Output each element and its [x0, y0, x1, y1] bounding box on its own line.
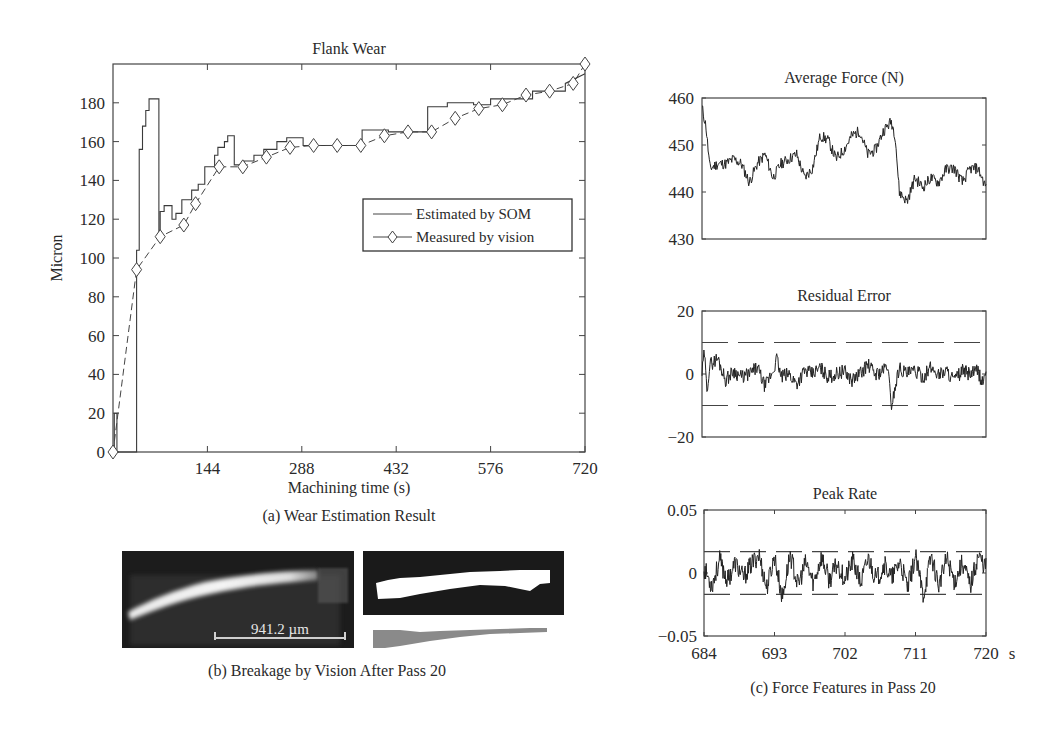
- y-tick-label: 20: [677, 302, 694, 321]
- average-force-chart: Average Force (N) 430440450460: [669, 69, 987, 249]
- y-tick-label: 430: [669, 230, 695, 249]
- vision-diamond-marker: [474, 102, 484, 116]
- flank-wear-chart: Flank Wear 020406080100120140160180 1442…: [48, 40, 598, 525]
- peak-rate-chart: Peak Rate −0.0500.05 684693702711720s: [658, 485, 1016, 663]
- figure-canvas: Flank Wear 020406080100120140160180 1442…: [0, 0, 1059, 737]
- average-force-title: Average Force (N): [784, 69, 904, 87]
- y-tick-label: 100: [80, 249, 106, 268]
- y-tick-label: 40: [88, 365, 105, 384]
- y-tick-label: 140: [80, 171, 106, 190]
- residual-error-title: Residual Error: [797, 287, 891, 304]
- x-tick-label: 432: [383, 459, 409, 478]
- breakage-vision-images: 941.2 µm (b) Breakage by Vision After Pa…: [122, 551, 564, 680]
- caption-b: (b) Breakage by Vision After Pass 20: [208, 662, 446, 680]
- caption-c: (c) Force Features in Pass 20: [750, 679, 935, 697]
- y-tick-label: 0: [97, 443, 106, 462]
- flank-wear-y-axis: 020406080100120140160180: [80, 94, 586, 462]
- y-tick-label: 0: [686, 365, 695, 384]
- y-tick-label: 120: [80, 210, 106, 229]
- vision-diamond-marker: [309, 138, 319, 152]
- x-tick-label: 702: [832, 644, 858, 663]
- x-tick-label: 711: [903, 644, 928, 663]
- legend-som-label: Estimated by SOM: [416, 206, 531, 222]
- vision-diamond-marker: [261, 150, 271, 164]
- flank-wear-x-label: Machining time (s): [288, 479, 411, 497]
- peak-rate-x-axis: 684693702711720s: [691, 510, 1015, 663]
- x-tick-label: 684: [691, 644, 717, 663]
- flank-wear-plot-frame: [113, 64, 585, 452]
- x-tick-label: 288: [289, 459, 315, 478]
- wear-profile-image: [373, 628, 547, 648]
- vision-diamond-marker: [450, 111, 460, 125]
- raw-tool-image: 941.2 µm: [122, 551, 354, 648]
- vision-diamond-marker: [521, 88, 531, 102]
- residual-error-y-axis: −20020: [667, 302, 986, 447]
- y-tick-label: 60: [88, 327, 105, 346]
- y-tick-label: 450: [669, 136, 695, 155]
- vision-diamond-marker: [403, 125, 413, 139]
- vision-measured-line: [113, 64, 585, 452]
- y-tick-label: 440: [669, 183, 695, 202]
- vision-diamond-marker: [545, 84, 555, 98]
- som-estimate-line: [113, 74, 585, 452]
- vision-diamond-marker: [179, 218, 189, 232]
- x-tick-label: 720: [973, 644, 999, 663]
- y-tick-label: 180: [80, 94, 106, 113]
- x-tick-label: 693: [762, 644, 788, 663]
- y-tick-label: 0.05: [667, 501, 697, 520]
- peak-rate-title: Peak Rate: [813, 485, 877, 502]
- flank-wear-series: [108, 57, 590, 459]
- average-force-series: [702, 106, 986, 204]
- y-tick-label: −20: [667, 428, 694, 447]
- peak-rate-series: [704, 549, 986, 602]
- residual-error-series: [702, 343, 986, 410]
- vision-diamond-marker: [497, 98, 507, 112]
- average-force-y-axis: 430440450460: [669, 89, 987, 249]
- y-tick-label: 80: [88, 288, 105, 307]
- force-features-charts: Average Force (N) 430440450460 Residual …: [658, 69, 1016, 697]
- y-tick-label: 460: [669, 89, 695, 108]
- vision-diamond-marker: [155, 230, 165, 244]
- y-tick-label: 20: [88, 404, 105, 423]
- residual-error-line: [702, 350, 986, 410]
- caption-a: (a) Wear Estimation Result: [262, 507, 436, 525]
- x-axis-unit-label: s: [1009, 644, 1016, 663]
- vision-diamond-marker: [356, 138, 366, 152]
- segmented-tool-image: [363, 551, 564, 615]
- x-tick-label: 576: [478, 459, 504, 478]
- scale-bar-label: 941.2 µm: [251, 621, 309, 637]
- vision-diamond-marker: [238, 160, 248, 174]
- average-force-line: [702, 106, 986, 204]
- x-tick-label: 720: [572, 459, 598, 478]
- y-tick-label: 0: [689, 564, 698, 583]
- x-tick-label: 144: [195, 459, 221, 478]
- vision-diamond-marker: [332, 138, 342, 152]
- flank-wear-y-label: Micron: [48, 234, 65, 281]
- vision-diamond-marker: [285, 140, 295, 154]
- legend-vision-label: Measured by vision: [416, 229, 535, 245]
- residual-error-chart: Residual Error −20020: [667, 287, 986, 447]
- flank-wear-legend: Estimated by SOM Measured by vision: [363, 199, 572, 251]
- y-tick-label: 160: [80, 133, 106, 152]
- flank-wear-x-axis: 144288432576720: [195, 64, 598, 478]
- flank-wear-title: Flank Wear: [312, 40, 386, 57]
